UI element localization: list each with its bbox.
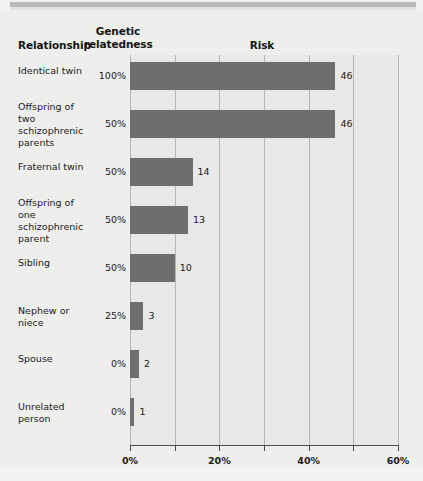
bar-value-label: 1 [139,406,145,417]
row-label: Identical twin [18,65,92,77]
bar-value-label: 10 [180,262,192,273]
row-label: Spouse [18,353,92,365]
row-genetic-relatedness: 50% [94,118,126,129]
bar [130,110,335,138]
x-tick-label-0: 0% [122,455,138,466]
row-label-line: Offspring of one [18,197,92,221]
bar [130,350,139,378]
x-tick-label-40: 40% [297,455,320,466]
row-label: Nephew or niece [18,305,92,329]
bar [130,302,143,330]
row-label: Offspring of oneschizophrenicparent [18,197,92,245]
row-label-line: Sibling [18,257,92,269]
row-label-line: schizophrenic [18,125,92,137]
row-genetic-relatedness: 0% [94,358,126,369]
row-label: Sibling [18,257,92,269]
x-tick-60 [398,445,399,451]
bar [130,62,335,90]
gridline-60 [398,55,399,445]
figure-body: Relationship Genetic relatedness Risk 0%… [0,11,423,466]
x-tick-20 [219,445,220,451]
x-tick-10 [175,445,176,451]
x-tick-label-60: 60% [387,455,410,466]
row-genetic-relatedness: 0% [94,406,126,417]
bar-value-label: 46 [340,118,352,129]
x-tick-0 [130,445,131,451]
column-header-genetic-line2: relatedness [84,38,152,51]
row-label: Fraternal twin [18,161,92,173]
row-label-line: Fraternal twin [18,161,92,173]
row-label: Unrelated person [18,401,92,425]
bar [130,206,188,234]
row-label-line: Spouse [18,353,92,365]
bar [130,398,134,426]
row-genetic-relatedness: 50% [94,166,126,177]
bar-value-label: 46 [340,70,352,81]
x-tick-30 [264,445,265,451]
row-label-line: parents [18,137,92,149]
row-label-line: schizophrenic [18,221,92,233]
row-genetic-relatedness: 25% [94,310,126,321]
row-genetic-relatedness: 100% [94,70,126,81]
column-header-risk: Risk [236,39,288,51]
gridline-50 [353,55,354,445]
x-tick-label-20: 20% [208,455,231,466]
top-decoration-band-light [10,7,416,10]
bar [130,254,175,282]
row-label-line: Offspring of two [18,101,92,125]
row-label-line: Nephew or niece [18,305,92,329]
column-header-genetic-line1: Genetic [84,25,152,38]
bar-value-label: 3 [148,310,154,321]
chart-page: Relationship Genetic relatedness Risk 0%… [0,0,423,481]
row-label-line: Unrelated person [18,401,92,425]
bar-value-label: 14 [198,166,210,177]
row-label-line: parent [18,233,92,245]
column-header-relationship: Relationship [18,39,91,51]
x-tick-50 [353,445,354,451]
row-genetic-relatedness: 50% [94,214,126,225]
x-tick-40 [309,445,310,451]
row-label-line: Identical twin [18,65,92,77]
bar-value-label: 2 [144,358,150,369]
bar-value-label: 13 [193,214,205,225]
row-label: Offspring of twoschizophrenicparents [18,101,92,149]
bar [130,158,193,186]
row-genetic-relatedness: 50% [94,262,126,273]
column-header-genetic-relatedness: Genetic relatedness [84,25,152,50]
